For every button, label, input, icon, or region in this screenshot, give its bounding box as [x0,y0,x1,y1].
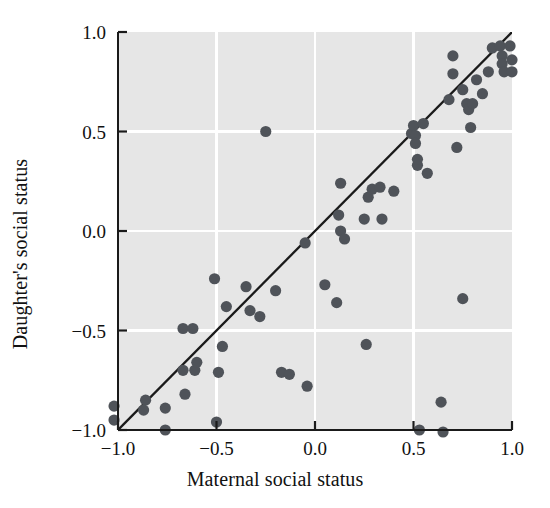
x-axis-tick-labels: −1.0−0.50.00.51.0 [101,438,524,459]
data-point [319,279,330,290]
data-point [435,397,446,408]
data-point [374,182,385,193]
x-tick-label: 0.5 [402,438,426,459]
plot-canvas: −1.0−0.50.00.51.0 −1.0−0.50.00.51.0 [0,0,550,508]
data-point [244,305,255,316]
data-point [270,285,281,296]
data-point [457,84,468,95]
y-tick-label: −0.5 [72,321,106,342]
data-point [339,233,350,244]
data-point [213,367,224,378]
x-tick-label: 1.0 [500,438,524,459]
data-point [451,142,462,153]
x-tick-label: −1.0 [101,438,135,459]
x-tick-label: −0.5 [199,438,233,459]
data-point [465,122,476,133]
data-point [177,365,188,376]
y-axis-tick-labels: −1.0−0.50.00.51.0 [72,22,106,441]
y-tick-label: 0.0 [82,221,106,242]
data-point [302,381,313,392]
data-point [437,426,448,437]
data-point [254,311,265,322]
data-point [447,50,458,61]
data-point [412,154,423,165]
data-point [191,357,202,368]
data-point [504,40,515,51]
data-point [300,237,311,248]
data-point [209,273,220,284]
data-point [408,120,419,131]
data-point [410,138,421,149]
data-point [221,301,232,312]
y-tick-label: 1.0 [82,22,106,43]
data-point [160,403,171,414]
data-point [457,293,468,304]
scatter-plot-figure: −1.0−0.50.00.51.0 −1.0−0.50.00.51.0 Mate… [0,0,550,508]
data-point [335,178,346,189]
data-point [284,369,295,380]
data-point [260,126,271,137]
data-point [140,395,151,406]
data-point [376,213,387,224]
y-tick-label: 0.5 [82,122,106,143]
data-point [471,74,482,85]
data-point [333,209,344,220]
data-point [467,98,478,109]
data-point [443,94,454,105]
data-point [361,339,372,350]
data-point [506,66,517,77]
data-point [217,341,228,352]
data-point [331,297,342,308]
data-point [422,168,433,179]
data-point [495,40,506,51]
x-tick-label: 0.0 [303,438,327,459]
data-point [138,405,149,416]
data-point [179,389,190,400]
data-point [388,186,399,197]
data-point [240,281,251,292]
data-point [418,118,429,129]
data-point [483,66,494,77]
data-point [506,54,517,65]
x-axis-title: Maternal social status [0,468,550,491]
y-axis-title: Daughter's social status [0,0,40,508]
data-point [177,323,188,334]
y-tick-label: −1.0 [72,420,106,441]
data-point [187,323,198,334]
data-point [477,88,488,99]
data-point [359,213,370,224]
data-point [447,68,458,79]
